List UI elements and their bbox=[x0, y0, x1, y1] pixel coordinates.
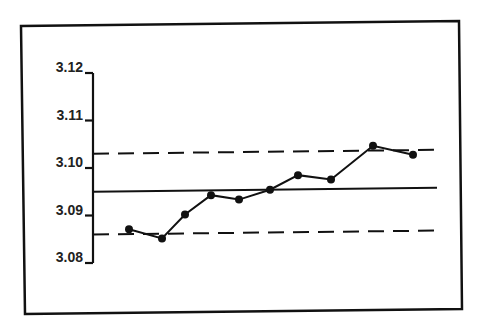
data-point-marker bbox=[125, 225, 133, 233]
measurement-series bbox=[125, 142, 417, 243]
y-tick-label: 3.08 bbox=[56, 249, 83, 265]
upper-control-limit-line bbox=[93, 150, 437, 154]
data-point-marker bbox=[327, 176, 335, 184]
data-point-marker bbox=[158, 234, 166, 242]
data-point-marker bbox=[294, 171, 302, 179]
y-axis bbox=[85, 73, 93, 263]
data-point-marker bbox=[369, 142, 377, 150]
data-point-marker bbox=[266, 186, 274, 194]
data-point-marker bbox=[409, 151, 417, 159]
y-tick-label: 3.12 bbox=[56, 59, 83, 75]
control-chart: 3.083.093.103.113.12 bbox=[0, 0, 479, 331]
y-tick-label: 3.09 bbox=[56, 202, 83, 218]
data-point-marker bbox=[235, 196, 243, 204]
y-axis-tick-labels: 3.083.093.103.113.12 bbox=[56, 59, 83, 265]
y-tick-label: 3.10 bbox=[56, 154, 83, 170]
data-point-marker bbox=[207, 191, 215, 199]
data-point-marker bbox=[181, 210, 189, 218]
y-tick-label: 3.11 bbox=[57, 107, 84, 123]
